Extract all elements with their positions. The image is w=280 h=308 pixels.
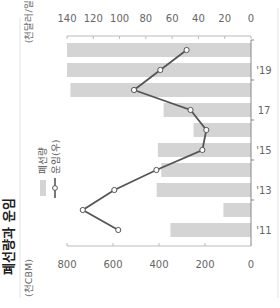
x-tick-label: '15	[256, 145, 271, 156]
x-tick-label: '11	[256, 225, 271, 236]
left-axis-unit: (천CBM)	[23, 259, 34, 297]
legend-marker-icon	[53, 186, 58, 191]
bar	[70, 83, 251, 97]
line-marker	[80, 207, 85, 212]
line-marker	[204, 127, 209, 132]
right-tick-label: 100	[110, 13, 129, 24]
right-tick-label: 120	[84, 13, 103, 24]
right-tick-label: 80	[139, 13, 152, 24]
legend: 폐선량 운임(우)	[37, 140, 61, 198]
left-tick-label: 0	[248, 259, 254, 270]
legend-label-freight: 운임(우)	[50, 140, 61, 174]
right-tick-label: 0	[248, 13, 254, 24]
line-marker	[188, 107, 193, 112]
right-tick-label: 60	[166, 13, 179, 24]
right-axis-unit: (천달러/일)	[23, 0, 34, 43]
left-tick-label: 600	[103, 259, 122, 270]
legend-bar-swatch	[40, 180, 46, 196]
legend-label-scrap: 폐선량	[37, 147, 48, 174]
left-tick-label: 200	[195, 259, 214, 270]
bar	[67, 43, 251, 57]
line-marker	[116, 227, 121, 232]
bar	[171, 223, 252, 237]
chart-svg: 폐선량과 운임 (천CBM) (천달러/일) 폐선량 운임(우) 0200400…	[0, 0, 280, 308]
bar	[161, 163, 251, 177]
chart-container: 폐선량과 운임 (천CBM) (천달러/일) 폐선량 운임(우) 0200400…	[0, 0, 280, 308]
x-tick-label: '13	[256, 185, 271, 196]
line-marker	[200, 147, 205, 152]
line-marker	[112, 187, 117, 192]
right-tick-label: 140	[57, 13, 76, 24]
bar	[157, 183, 251, 197]
right-tick-label: 20	[218, 13, 231, 24]
bar	[223, 203, 251, 217]
line-marker	[154, 167, 159, 172]
chart-title: 폐선량과 운임	[1, 198, 16, 275]
left-tick-label: 800	[57, 259, 76, 270]
x-tick-label: 17	[258, 105, 271, 116]
right-tick-label: 40	[192, 13, 205, 24]
left-tick-label: 400	[149, 259, 168, 270]
line-marker	[184, 47, 189, 52]
x-tick-label: '19	[256, 65, 271, 76]
line-marker	[158, 67, 163, 72]
line-marker	[131, 87, 136, 92]
